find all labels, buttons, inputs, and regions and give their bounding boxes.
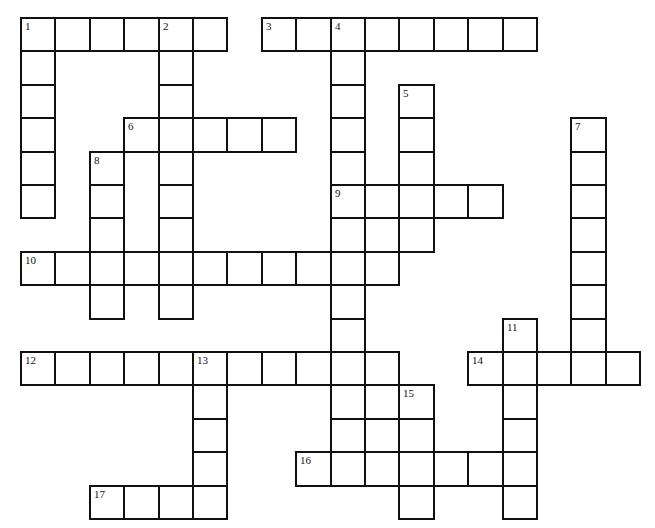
crossword-cell[interactable] (123, 485, 160, 520)
crossword-cell[interactable]: 14 (467, 351, 504, 386)
crossword-cell[interactable]: 1 (20, 17, 56, 52)
crossword-cell[interactable] (158, 151, 194, 186)
crossword-cell[interactable] (158, 184, 194, 219)
crossword-cell[interactable] (398, 184, 435, 219)
crossword-cell[interactable] (570, 351, 607, 386)
crossword-cell[interactable] (192, 251, 228, 286)
crossword-cell[interactable] (364, 384, 400, 420)
crossword-cell[interactable] (20, 50, 56, 86)
crossword-cell[interactable] (20, 184, 56, 219)
crossword-cell[interactable] (54, 351, 91, 386)
crossword-cell[interactable] (398, 151, 435, 186)
crossword-cell[interactable] (570, 251, 607, 286)
crossword-cell[interactable] (330, 384, 366, 420)
crossword-cell[interactable] (398, 17, 435, 52)
crossword-cell[interactable] (20, 117, 56, 153)
crossword-cell[interactable]: 7 (570, 117, 607, 153)
crossword-cell[interactable]: 13 (192, 351, 228, 386)
crossword-cell[interactable] (89, 184, 125, 219)
crossword-cell[interactable]: 8 (89, 151, 125, 186)
crossword-cell[interactable] (364, 451, 400, 487)
crossword-cell[interactable] (123, 251, 160, 286)
crossword-cell[interactable] (502, 17, 538, 52)
crossword-cell[interactable]: 6 (123, 117, 160, 153)
crossword-cell[interactable] (192, 485, 228, 520)
crossword-cell[interactable] (192, 117, 228, 153)
crossword-cell[interactable]: 15 (398, 384, 435, 420)
crossword-cell[interactable] (330, 318, 366, 353)
crossword-cell[interactable]: 10 (20, 251, 56, 286)
crossword-cell[interactable] (158, 485, 194, 520)
crossword-cell[interactable] (20, 84, 56, 119)
crossword-cell[interactable] (54, 17, 91, 52)
crossword-cell[interactable] (192, 17, 228, 52)
crossword-cell[interactable] (158, 117, 194, 153)
crossword-cell[interactable] (192, 384, 228, 420)
crossword-cell[interactable] (89, 17, 125, 52)
crossword-cell[interactable] (89, 351, 125, 386)
crossword-cell[interactable] (158, 84, 194, 119)
crossword-cell[interactable] (364, 184, 400, 219)
crossword-cell[interactable]: 5 (398, 84, 435, 119)
crossword-cell[interactable] (261, 117, 297, 153)
crossword-cell[interactable] (192, 451, 228, 487)
crossword-cell[interactable] (295, 251, 332, 286)
crossword-cell[interactable] (158, 50, 194, 86)
crossword-cell[interactable] (20, 151, 56, 186)
crossword-cell[interactable]: 9 (330, 184, 366, 219)
crossword-cell[interactable] (330, 84, 366, 119)
crossword-cell[interactable] (330, 284, 366, 320)
crossword-cell[interactable] (433, 451, 469, 487)
crossword-cell[interactable] (261, 251, 297, 286)
crossword-cell[interactable] (261, 351, 297, 386)
crossword-cell[interactable] (226, 251, 263, 286)
crossword-cell[interactable] (123, 17, 160, 52)
crossword-cell[interactable] (89, 251, 125, 286)
crossword-cell[interactable] (364, 251, 400, 286)
crossword-cell[interactable] (502, 485, 538, 520)
crossword-cell[interactable] (398, 217, 435, 253)
crossword-cell[interactable] (364, 351, 400, 386)
crossword-cell[interactable] (536, 351, 572, 386)
crossword-cell[interactable] (295, 351, 332, 386)
crossword-cell[interactable] (398, 451, 435, 487)
crossword-cell[interactable] (502, 418, 538, 453)
crossword-cell[interactable] (158, 284, 194, 320)
crossword-cell[interactable]: 12 (20, 351, 56, 386)
crossword-cell[interactable] (433, 17, 469, 52)
crossword-cell[interactable] (467, 17, 504, 52)
crossword-cell[interactable] (570, 284, 607, 320)
crossword-cell[interactable] (54, 251, 91, 286)
crossword-cell[interactable] (502, 451, 538, 487)
crossword-cell[interactable] (330, 451, 366, 487)
crossword-cell[interactable] (89, 284, 125, 320)
crossword-cell[interactable] (433, 184, 469, 219)
crossword-cell[interactable] (123, 351, 160, 386)
crossword-cell[interactable] (364, 217, 400, 253)
crossword-cell[interactable]: 11 (502, 318, 538, 353)
crossword-cell[interactable] (570, 184, 607, 219)
crossword-cell[interactable]: 2 (158, 17, 194, 52)
crossword-cell[interactable] (330, 351, 366, 386)
crossword-cell[interactable]: 4 (330, 17, 366, 52)
crossword-cell[interactable] (570, 217, 607, 253)
crossword-cell[interactable] (502, 384, 538, 420)
crossword-cell[interactable] (226, 117, 263, 153)
crossword-cell[interactable] (330, 50, 366, 86)
crossword-cell[interactable] (570, 151, 607, 186)
crossword-cell[interactable]: 16 (295, 451, 332, 487)
crossword-cell[interactable] (467, 451, 504, 487)
crossword-cell[interactable] (467, 184, 504, 219)
crossword-cell[interactable] (398, 485, 435, 520)
crossword-cell[interactable] (398, 418, 435, 453)
crossword-cell[interactable] (570, 318, 607, 353)
crossword-cell[interactable] (330, 251, 366, 286)
crossword-cell[interactable] (89, 217, 125, 253)
crossword-cell[interactable] (330, 418, 366, 453)
crossword-cell[interactable] (226, 351, 263, 386)
crossword-cell[interactable] (330, 151, 366, 186)
crossword-cell[interactable] (158, 351, 194, 386)
crossword-cell[interactable] (398, 117, 435, 153)
crossword-cell[interactable] (158, 251, 194, 286)
crossword-cell[interactable] (192, 418, 228, 453)
